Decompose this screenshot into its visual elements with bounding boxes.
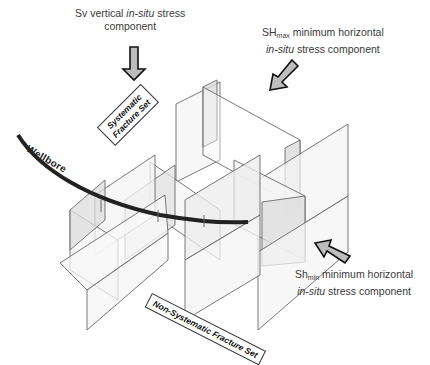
shmin-label: Shmin minimum horizontal in-situ stress … (295, 268, 413, 297)
shmax-label: SHmax minimum horizontal in-situ stress … (262, 26, 384, 55)
sv-arrow-icon (123, 47, 145, 80)
sv-label: Sv vertical in-situ stress component (75, 7, 185, 32)
shmax-arrow-icon (270, 60, 298, 90)
